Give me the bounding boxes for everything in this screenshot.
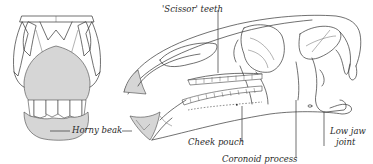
label-coronoid-process: Coronoid process [222,155,297,164]
label-low-jaw-line2: joint [336,138,355,147]
label-low-jaw-line1: Low jaw [330,127,366,136]
front-view-skull [13,16,100,140]
side-view-skull [124,15,361,140]
label-scissor-teeth: 'Scissor' teeth [162,5,223,14]
skull-diagram: 'Scissor' teeth Horny beak Cheek pouch C… [0,0,373,164]
label-cheek-pouch: Cheek pouch [188,138,244,147]
skull-illustration [0,0,373,164]
label-horny-beak: Horny beak [72,126,122,135]
